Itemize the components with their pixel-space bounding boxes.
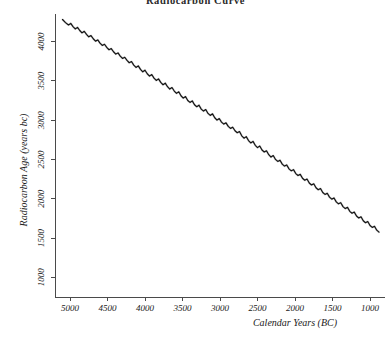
calibration-curve-shadow — [63, 20, 380, 233]
x-tick-label: 3000 — [210, 303, 230, 313]
radiocarbon-chart: Radiocarbon Curve 1000150020002500300035… — [0, 0, 391, 339]
x-tick-label: 1500 — [324, 303, 343, 313]
y-tick-label: 4000 — [36, 32, 46, 51]
y-tick-label: 1000 — [36, 268, 46, 287]
x-tick-label: 2500 — [249, 303, 268, 313]
x-tick-label: 4000 — [136, 303, 155, 313]
x-axis-ticks: 500045004000350030002500200015001000 — [61, 297, 380, 313]
y-tick-label: 2000 — [36, 189, 46, 208]
x-tick-label: 4500 — [99, 303, 118, 313]
y-tick-label: 3000 — [36, 111, 46, 131]
y-tick-label: 1500 — [36, 229, 46, 248]
y-axis-title: Radiocarbon Age (years bc) — [18, 113, 30, 228]
x-tick-label: 1000 — [361, 303, 380, 313]
chart-plot-area: 1000150020002500300035004000 50004500400… — [0, 0, 391, 339]
calibration-curve — [63, 20, 380, 233]
calibration-curve-group — [63, 20, 380, 233]
y-axis-ticks: 1000150020002500300035004000 — [36, 32, 55, 286]
x-tick-label: 2000 — [286, 303, 305, 313]
axes-group — [55, 14, 385, 297]
y-tick-label: 3500 — [36, 71, 46, 91]
x-tick-label: 5000 — [61, 303, 80, 313]
y-tick-label: 2500 — [36, 150, 46, 169]
x-axis-title: Calendar Years (BC) — [253, 317, 338, 329]
x-tick-label: 3500 — [173, 303, 193, 313]
